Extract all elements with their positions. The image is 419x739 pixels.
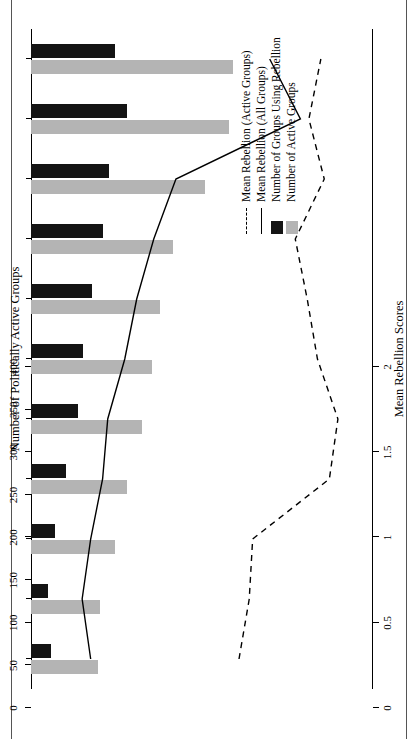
legend-item-label: Mean Rebellion (Active Groups) [240, 50, 252, 202]
legend-item-label: Number of Groups Using Rebellion [270, 37, 282, 202]
black-swatch-key [271, 221, 283, 234]
rotated-chart-container: Number of Politically Active Groups 0501… [0, 0, 419, 739]
gray-swatch-key [286, 221, 298, 234]
legend-item-label: Mean Rebellion (All Groups) [255, 66, 267, 202]
chart-page: Number of Politically Active Groups 0501… [0, 0, 419, 739]
legend-item-label: Number of Active Groups [285, 82, 297, 202]
dashed-line-key [246, 208, 247, 234]
solid-line-key [261, 208, 262, 234]
line-series-group [0, 0, 419, 739]
line-mean-rebellion-all [82, 59, 300, 659]
